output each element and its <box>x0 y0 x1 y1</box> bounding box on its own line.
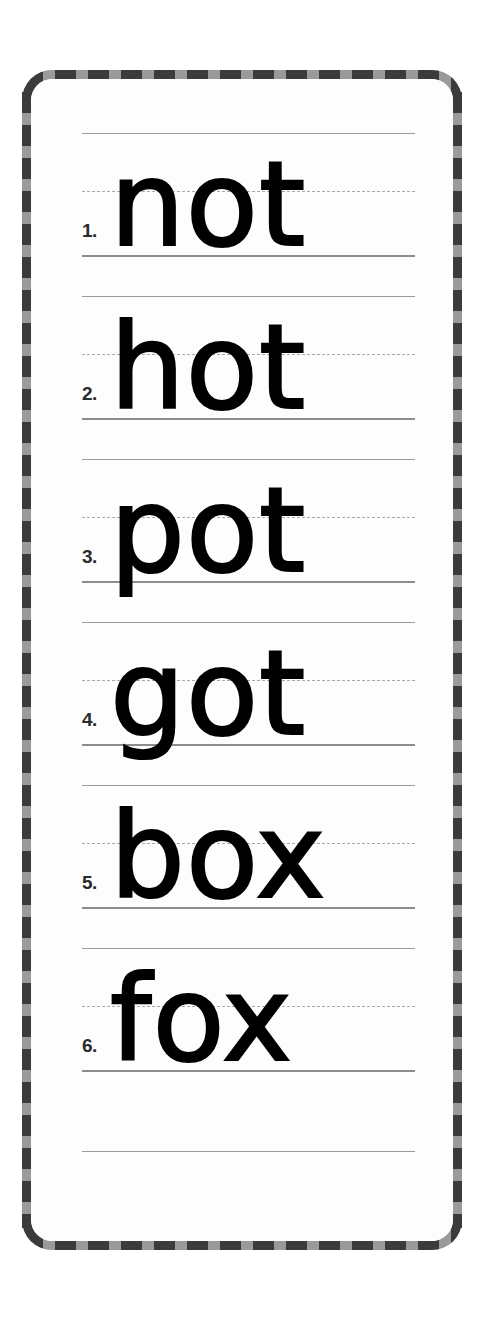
practice-word: pot <box>110 480 306 581</box>
card-frame-left-stripe <box>22 92 31 1228</box>
worksheet-row: 5. box <box>82 785 415 948</box>
worksheet-row: 4. got <box>82 622 415 785</box>
worksheet-card: 1. not 2. hot 3. pot 4. got <box>22 70 462 1250</box>
card-frame-right-stripe <box>453 92 462 1228</box>
worksheet-sheet: 1. not 2. hot 3. pot 4. got <box>31 79 453 1241</box>
practice-word: hot <box>110 317 306 418</box>
worksheet-row: 3. pot <box>82 459 415 622</box>
row-number: 3. <box>82 547 97 566</box>
worksheet-row: 6. fox <box>82 948 415 1111</box>
row-number: 1. <box>82 221 97 240</box>
row-number: 2. <box>82 384 97 403</box>
practice-word: fox <box>110 969 293 1070</box>
practice-word: not <box>110 154 306 255</box>
worksheet-row: 2. hot <box>82 296 415 459</box>
row-number: 4. <box>82 710 97 729</box>
row-number: 6. <box>82 1036 97 1055</box>
practice-word: got <box>110 643 306 744</box>
practice-word: box <box>110 806 326 907</box>
row-number: 5. <box>82 873 97 892</box>
guide-line-closing <box>82 1151 415 1152</box>
worksheet-row: 1. not <box>82 133 415 296</box>
